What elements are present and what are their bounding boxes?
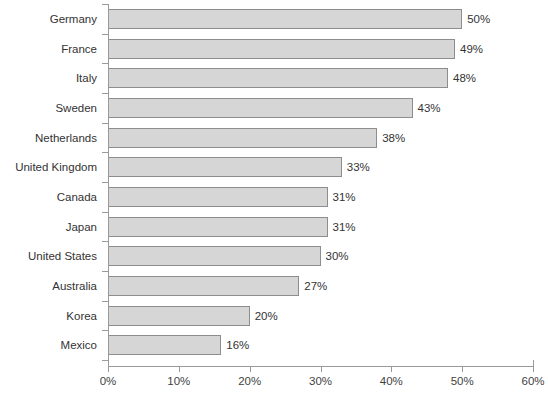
x-axis-tick-label: 30% [309, 374, 332, 388]
y-axis-line [108, 4, 109, 367]
x-axis-tick [250, 366, 251, 372]
bar [108, 39, 455, 59]
bar [108, 187, 328, 207]
y-axis-tick [102, 301, 108, 302]
bar [108, 98, 413, 118]
category-label: Netherlands [0, 128, 97, 148]
x-axis-tick [108, 366, 109, 372]
bar-value-label: 30% [321, 246, 349, 266]
y-axis-tick [102, 123, 108, 124]
x-axis-tick-label: 60% [521, 374, 544, 388]
y-axis-tick [102, 330, 108, 331]
category-label: Italy [0, 68, 97, 88]
bar-value-label: 49% [455, 39, 483, 59]
x-axis-tick [391, 366, 392, 372]
bar [108, 68, 448, 88]
x-axis-tick-label: 40% [380, 374, 403, 388]
bar [108, 335, 221, 355]
category-label: United Kingdom [0, 157, 97, 177]
x-axis-tick-label: 0% [100, 374, 117, 388]
y-axis-tick [102, 152, 108, 153]
category-label: United States [0, 246, 97, 266]
y-axis-tick [102, 182, 108, 183]
x-axis-tick-label: 10% [167, 374, 190, 388]
category-label: Australia [0, 276, 97, 296]
y-axis-tick [102, 4, 108, 5]
bar [108, 9, 462, 29]
bar-chart: GermanyFranceItalySwedenNetherlandsUnite… [0, 0, 548, 395]
bar [108, 306, 250, 326]
x-axis-tick-label: 50% [451, 374, 474, 388]
x-axis-tick [321, 366, 322, 372]
bar [108, 128, 377, 148]
category-label: Japan [0, 217, 97, 237]
category-label: Mexico [0, 335, 97, 355]
y-axis-tick [102, 212, 108, 213]
y-axis-tick [102, 241, 108, 242]
x-axis-tick [179, 366, 180, 372]
bar [108, 157, 342, 177]
bar-value-label: 33% [342, 157, 370, 177]
bar-value-label: 43% [413, 98, 441, 118]
bar [108, 246, 321, 266]
bar-value-label: 31% [328, 217, 356, 237]
x-axis-tick [462, 366, 463, 372]
category-label: Sweden [0, 98, 97, 118]
x-axis-tick-label: 20% [238, 374, 261, 388]
y-axis-tick [102, 93, 108, 94]
bar [108, 276, 299, 296]
y-axis-tick [102, 271, 108, 272]
category-label: Korea [0, 306, 97, 326]
category-label: Germany [0, 9, 97, 29]
bar-value-label: 38% [377, 128, 405, 148]
y-axis-tick [102, 34, 108, 35]
bar-value-label: 48% [448, 68, 476, 88]
x-axis-tick [533, 366, 534, 372]
bar-value-label: 50% [462, 9, 490, 29]
category-label: Canada [0, 187, 97, 207]
bar-value-label: 20% [250, 306, 278, 326]
bar-value-label: 27% [299, 276, 327, 296]
y-axis-tick [102, 360, 108, 361]
bar-value-label: 31% [328, 187, 356, 207]
bar [108, 217, 328, 237]
category-label: France [0, 39, 97, 59]
bar-value-label: 16% [221, 335, 249, 355]
y-axis-tick [102, 63, 108, 64]
